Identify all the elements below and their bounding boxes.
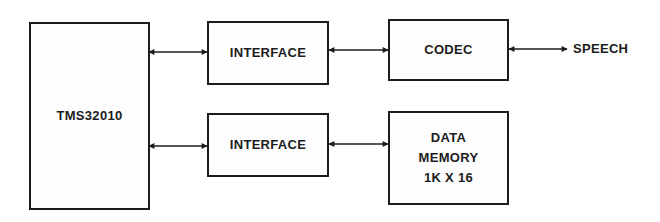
tms32010-label: TMS32010 [57,106,123,126]
codec-block: CODEC [388,19,509,81]
tms32010-block: TMS32010 [29,22,150,210]
data-memory-block: DATA MEMORY 1K X 16 [388,111,509,205]
data-memory-line1: DATA [419,128,479,148]
speech-label: SPEECH [573,41,628,56]
interface-block-top: INTERFACE [207,21,329,85]
interface-bottom-label: INTERFACE [230,135,306,155]
interface-block-bottom: INTERFACE [207,113,329,177]
data-memory-line3: 1K X 16 [419,168,479,188]
codec-label: CODEC [424,40,472,60]
data-memory-line2: MEMORY [419,148,479,168]
interface-top-label: INTERFACE [230,43,306,63]
